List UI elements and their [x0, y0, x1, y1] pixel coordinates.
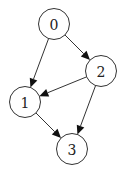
- node-label: 1: [21, 95, 30, 111]
- node-1: 1: [10, 87, 41, 118]
- arrowhead-icon: [30, 78, 37, 88]
- edge-0-1: [30, 39, 49, 88]
- edge-2-1: [39, 77, 86, 97]
- edge-1-3: [36, 113, 61, 138]
- edge-2-3: [77, 86, 96, 135]
- edge-0-2: [65, 35, 90, 60]
- node-3: 3: [57, 134, 88, 165]
- node-label: 2: [97, 64, 106, 80]
- edge-line: [36, 113, 55, 132]
- edge-line: [34, 39, 49, 80]
- edges-layer: [30, 35, 96, 138]
- edge-line: [81, 86, 96, 127]
- edge-line: [48, 77, 87, 93]
- node-2: 2: [86, 56, 117, 87]
- directed-graph: 0123: [0, 0, 129, 175]
- node-0: 0: [39, 9, 70, 40]
- arrowhead-icon: [77, 125, 84, 135]
- node-label: 3: [68, 142, 77, 158]
- edge-line: [65, 35, 84, 54]
- node-label: 0: [50, 17, 59, 33]
